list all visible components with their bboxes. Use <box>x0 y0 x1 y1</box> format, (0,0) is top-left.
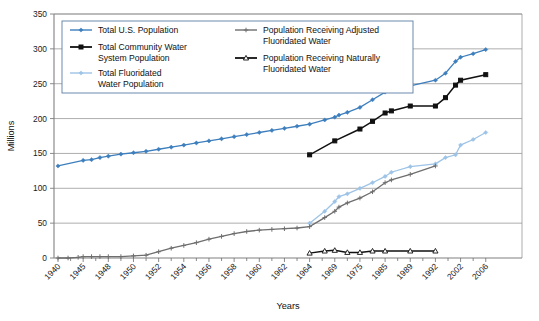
data-point <box>207 139 211 143</box>
data-point <box>333 139 337 143</box>
data-point <box>282 226 287 231</box>
legend-label: Total U.S. Population <box>98 25 178 35</box>
data-point <box>389 178 394 183</box>
x-tick-label: 1992 <box>420 261 440 281</box>
legend-label: Total Fluoridated <box>98 68 162 78</box>
data-point <box>194 141 198 145</box>
y-axis-title: Millions <box>6 120 16 151</box>
y-tick-label: 300 <box>33 44 47 54</box>
data-point <box>454 83 458 87</box>
data-point <box>295 124 299 128</box>
legend-label-line2: Fluoridated Water <box>263 36 331 46</box>
x-tick-label: 1989 <box>394 261 414 281</box>
x-tick-label: 1958 <box>218 261 238 281</box>
x-tick-label: 1960 <box>243 261 263 281</box>
data-point <box>119 152 123 156</box>
data-point <box>131 151 135 155</box>
data-point <box>106 154 110 158</box>
data-point <box>194 240 199 245</box>
data-point <box>389 109 393 113</box>
x-tick-label: 1945 <box>67 261 87 281</box>
data-point <box>89 158 93 162</box>
data-point <box>219 234 224 239</box>
data-point <box>308 122 312 126</box>
data-point <box>295 226 300 231</box>
data-point <box>443 96 447 100</box>
data-point <box>232 231 237 236</box>
x-tick-label: 1964 <box>294 261 314 281</box>
data-point <box>66 256 71 261</box>
x-tick-label: 1948 <box>92 261 112 281</box>
data-point <box>56 164 60 168</box>
x-tick-label: 2002 <box>445 261 465 281</box>
y-tick-label: 350 <box>33 9 47 19</box>
data-point <box>244 229 249 234</box>
data-point <box>219 137 223 141</box>
data-point <box>358 127 362 131</box>
data-point <box>484 73 488 77</box>
data-point <box>371 119 375 123</box>
data-point <box>79 45 83 49</box>
data-point <box>144 149 148 153</box>
data-point <box>433 104 437 108</box>
data-point <box>370 181 374 185</box>
data-point <box>345 110 349 114</box>
legend-label: Population Receiving Naturally <box>263 53 381 63</box>
data-point <box>207 237 212 242</box>
x-tick-label: 1940 <box>42 261 62 281</box>
y-tick-label: 150 <box>33 148 47 158</box>
chart-container: 0501001502002503003501940194519481950195… <box>0 0 539 321</box>
data-point <box>471 52 475 56</box>
data-point <box>358 196 363 201</box>
x-axis-title: Years <box>276 301 300 311</box>
legend-label: Population Receiving Adjusted <box>263 25 379 35</box>
data-point <box>98 156 102 160</box>
x-tick-label: 1975 <box>344 261 364 281</box>
x-tick-label: 1969 <box>319 261 339 281</box>
x-tick-label: 1962 <box>269 261 289 281</box>
data-point <box>182 143 186 147</box>
data-point <box>282 126 286 130</box>
data-point <box>308 153 312 157</box>
data-point <box>81 158 85 162</box>
data-point <box>408 165 412 169</box>
data-point <box>257 228 262 233</box>
legend-label-line2: Fluoridated Water <box>263 64 331 74</box>
x-tick-label: 1954 <box>168 261 188 281</box>
data-point <box>358 186 362 190</box>
data-point <box>484 47 488 51</box>
data-point <box>232 135 236 139</box>
data-point <box>345 192 349 196</box>
data-point <box>169 246 174 251</box>
data-point <box>56 256 61 261</box>
data-point <box>383 111 387 115</box>
x-tick-label: 1985 <box>369 261 389 281</box>
data-point <box>156 249 161 254</box>
data-point <box>257 130 261 134</box>
data-point <box>345 201 350 206</box>
data-point <box>270 128 274 132</box>
data-point <box>408 104 412 108</box>
data-point <box>169 145 173 149</box>
data-point <box>144 253 149 258</box>
y-tick-label: 0 <box>42 253 47 263</box>
x-tick-label: 1952 <box>143 261 163 281</box>
x-tick-label: 1956 <box>193 261 213 281</box>
legend-label-line2: System Population <box>98 53 170 63</box>
data-point <box>459 78 463 82</box>
y-tick-label: 200 <box>33 114 47 124</box>
series-4 <box>307 248 438 255</box>
y-tick-label: 50 <box>38 218 48 228</box>
data-point <box>182 243 187 248</box>
data-point <box>408 172 413 177</box>
data-point <box>270 227 275 232</box>
legend: Total U.S. PopulationTotal Community Wat… <box>62 21 413 93</box>
legend-label: Total Community Water <box>98 42 187 52</box>
data-point <box>157 147 161 151</box>
x-tick-label: 1950 <box>118 261 138 281</box>
line-chart: 0501001502002503003501940194519481950195… <box>0 0 539 321</box>
data-point <box>337 113 341 117</box>
data-point <box>245 133 249 137</box>
data-point <box>76 255 81 260</box>
legend-label-line2: Water Population <box>98 79 164 89</box>
